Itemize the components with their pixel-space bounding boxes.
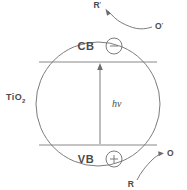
photon-excitation-arrow xyxy=(97,63,103,144)
tio2-label-text: TiO xyxy=(6,92,22,102)
oxidation-arrow-head xyxy=(158,151,164,156)
tio2-particle-circle xyxy=(36,42,160,166)
conduction-band-label: CB xyxy=(77,40,94,52)
excitation-arrow-head xyxy=(97,63,103,70)
hole-carrier-badge xyxy=(106,151,122,167)
tio2-photocatalysis-diagram: CB VB TiO2 hν R' O' xyxy=(0,0,187,190)
reduction-product-prime: ' xyxy=(100,1,102,7)
oxidation-pathway-arrow xyxy=(137,151,164,180)
reduction-product-label: R' xyxy=(93,0,101,10)
oxidation-reactant-label: R xyxy=(128,179,134,189)
reduction-arrow-head xyxy=(106,9,111,16)
tio2-material-label: TiO2 xyxy=(6,92,26,104)
reduction-pathway-arrow xyxy=(106,9,153,29)
reduction-arrow-curve xyxy=(108,11,152,29)
figure-canvas: CB VB TiO2 hν R' O' xyxy=(0,0,187,190)
photon-energy-nu: ν xyxy=(117,98,122,109)
oxidation-product-label: O xyxy=(167,148,174,158)
reduction-reactant-label: O' xyxy=(155,21,164,31)
valence-band-label: VB xyxy=(78,153,94,165)
reduction-reactant-prime: ' xyxy=(162,22,164,28)
oxidation-arrow-curve xyxy=(137,154,161,180)
photon-energy-label: hν xyxy=(112,98,122,109)
tio2-label-subscript: 2 xyxy=(22,98,26,104)
